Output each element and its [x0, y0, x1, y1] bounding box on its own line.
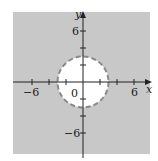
- region-plot: y x −6 6 6 −6 0: [0, 0, 158, 161]
- y-tick-label-6: 6: [72, 25, 79, 38]
- x-tick-label-neg6: −6: [23, 86, 39, 99]
- origin-label: 0: [71, 87, 78, 100]
- y-tick-label-neg6: −6: [64, 127, 80, 140]
- y-axis-label: y: [74, 8, 82, 21]
- x-axis-label: x: [146, 83, 153, 96]
- x-tick-label-6: 6: [131, 86, 138, 99]
